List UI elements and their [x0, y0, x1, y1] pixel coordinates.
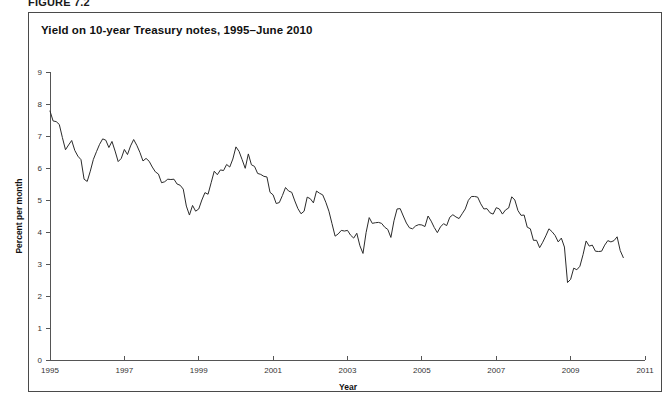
y-axis: 0123456789	[38, 68, 50, 365]
x-tick-label: 1995	[41, 366, 59, 375]
x-tick-label: 2007	[487, 366, 505, 375]
y-tick-label: 2	[38, 292, 43, 301]
y-tick-label: 4	[38, 228, 43, 237]
y-tick-label: 8	[38, 100, 43, 109]
x-axis-title: Year	[339, 382, 358, 392]
x-tick-label: 1997	[115, 366, 133, 375]
line-chart-svg: 0123456789 19951997199920012003200520072…	[0, 0, 669, 398]
y-tick-label: 1	[38, 324, 43, 333]
x-tick-label: 2005	[413, 366, 431, 375]
chart-plot-area: 0123456789 19951997199920012003200520072…	[0, 0, 669, 398]
y-axis-title: Percent per month	[14, 178, 24, 253]
x-tick-label: 1999	[190, 366, 208, 375]
data-line-treasury-yield	[50, 111, 623, 283]
y-tick-label: 3	[38, 260, 43, 269]
x-tick-label: 2011	[636, 366, 654, 375]
data-series-group	[50, 111, 623, 283]
y-tick-label: 7	[38, 132, 43, 141]
y-tick-label: 5	[38, 196, 43, 205]
y-tick-label: 0	[38, 356, 43, 365]
x-tick-label: 2003	[339, 366, 357, 375]
x-tick-label: 2001	[264, 366, 282, 375]
y-tick-label: 9	[38, 68, 43, 77]
x-tick-label: 2009	[562, 366, 580, 375]
x-axis: 199519971999200120032005200720092011	[41, 356, 654, 375]
y-tick-label: 6	[38, 164, 43, 173]
